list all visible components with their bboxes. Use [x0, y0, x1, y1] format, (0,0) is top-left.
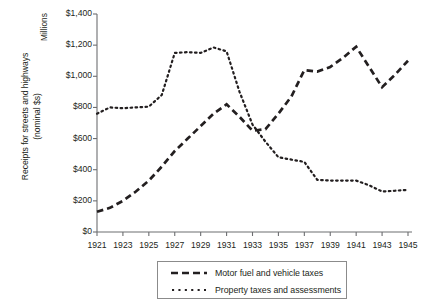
dashed-line-swatch-icon: [170, 267, 208, 279]
plot-area: [0, 0, 426, 305]
chart-legend: Motor fuel and vehicle taxes Property ta…: [157, 261, 347, 299]
legend-item-property-taxes: Property taxes and assessments: [158, 281, 348, 298]
series-line-motor-fuel: [97, 47, 408, 212]
data-series-group: [97, 47, 408, 212]
x-axis-ticks: [97, 232, 408, 236]
legend-label-property-taxes: Property taxes and assessments: [215, 285, 341, 295]
axis-lines: [97, 14, 412, 232]
chart-figure: Receipts for streets and highways (nomin…: [0, 0, 426, 305]
legend-item-motor-fuel: Motor fuel and vehicle taxes: [158, 264, 348, 281]
legend-label-motor-fuel: Motor fuel and vehicle taxes: [215, 268, 323, 278]
y-axis-ticks: [93, 14, 97, 232]
dotted-line-swatch-icon: [170, 284, 208, 296]
series-line-property-taxes: [97, 47, 408, 191]
